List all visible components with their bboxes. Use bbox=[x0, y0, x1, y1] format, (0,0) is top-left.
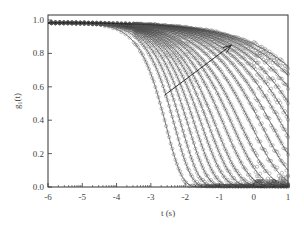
x-tick-label: -5 bbox=[79, 192, 87, 202]
data-point bbox=[259, 172, 262, 175]
data-point bbox=[268, 172, 271, 175]
series-c15 bbox=[48, 21, 290, 139]
x-tick-label: -1 bbox=[216, 192, 224, 202]
y-axis-title: g1(t) bbox=[12, 93, 23, 109]
x-tick-label: 0 bbox=[251, 192, 256, 202]
x-tick-label: -6 bbox=[44, 192, 52, 202]
x-tick-label: -4 bbox=[113, 192, 121, 202]
data-point bbox=[280, 171, 283, 174]
correlation-chart: -6-5-4-3-2-1010.00.20.40.60.81.0 t (s) g… bbox=[0, 0, 304, 230]
data-point bbox=[268, 89, 271, 92]
x-tick-label: 1 bbox=[286, 192, 291, 202]
data-point bbox=[277, 174, 280, 177]
y-tick-label: 0.0 bbox=[33, 182, 45, 192]
x-tick-label: -3 bbox=[147, 192, 155, 202]
y-tick-label: 0.2 bbox=[33, 149, 44, 159]
data-point bbox=[256, 165, 259, 168]
data-series-group bbox=[48, 21, 290, 188]
y-tick-label: 0.6 bbox=[33, 82, 45, 92]
y-tick-label: 1.0 bbox=[33, 15, 45, 25]
y-axis-title-tail: (t) bbox=[12, 93, 22, 102]
x-tick-label: -2 bbox=[181, 192, 189, 202]
y-tick-label: 0.8 bbox=[33, 48, 45, 58]
y-tick-label: 0.4 bbox=[33, 115, 45, 125]
data-point bbox=[266, 82, 269, 85]
x-axis-title: t (s) bbox=[161, 208, 175, 218]
